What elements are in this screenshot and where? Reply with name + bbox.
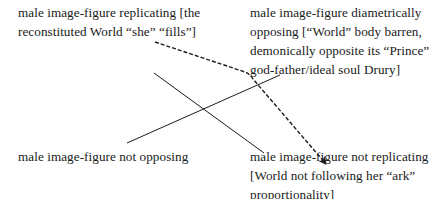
diagonal-edge-down xyxy=(154,73,264,153)
node-text-line: opposing [“World” body barren, xyxy=(250,22,429,41)
node-text-line: reconstituted World “she” “fills”] xyxy=(18,22,200,41)
node-text-line: male image-figure not opposing xyxy=(18,147,188,166)
node-bottom-left: male image-figure not opposing xyxy=(18,147,188,166)
node-text-line: male image-figure diametrically xyxy=(250,3,429,22)
node-text-line: proportionality] xyxy=(250,185,429,199)
node-bottom-right: male image-figure not replicating [World… xyxy=(250,147,429,199)
node-top-right: male image-figure diametrically opposing… xyxy=(250,3,429,79)
node-text-line: male image-figure replicating [the xyxy=(18,3,200,22)
node-text-line: demonically opposite its “Prince” xyxy=(250,41,429,60)
node-text-line: [World not following her “ark” xyxy=(250,166,429,185)
node-top-left: male image-figure replicating [the recon… xyxy=(18,3,200,41)
diagonal-edge-up xyxy=(127,75,280,143)
node-text-line: male image-figure not replicating xyxy=(250,147,429,166)
node-text-line: god-father/ideal soul Drury] xyxy=(250,60,429,79)
